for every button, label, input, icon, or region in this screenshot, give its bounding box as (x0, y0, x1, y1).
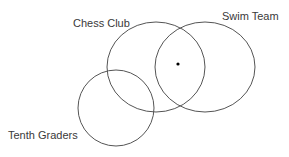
tenth-graders-label: Tenth Graders (8, 129, 78, 141)
tenth-graders-circle (78, 70, 154, 146)
venn-diagram: Chess Club Swim Team Tenth Graders (0, 0, 289, 157)
region-point (176, 62, 179, 65)
chess-club-label: Chess Club (73, 17, 130, 29)
swim-team-label: Swim Team (222, 10, 279, 22)
chess-club-circle (107, 22, 205, 112)
